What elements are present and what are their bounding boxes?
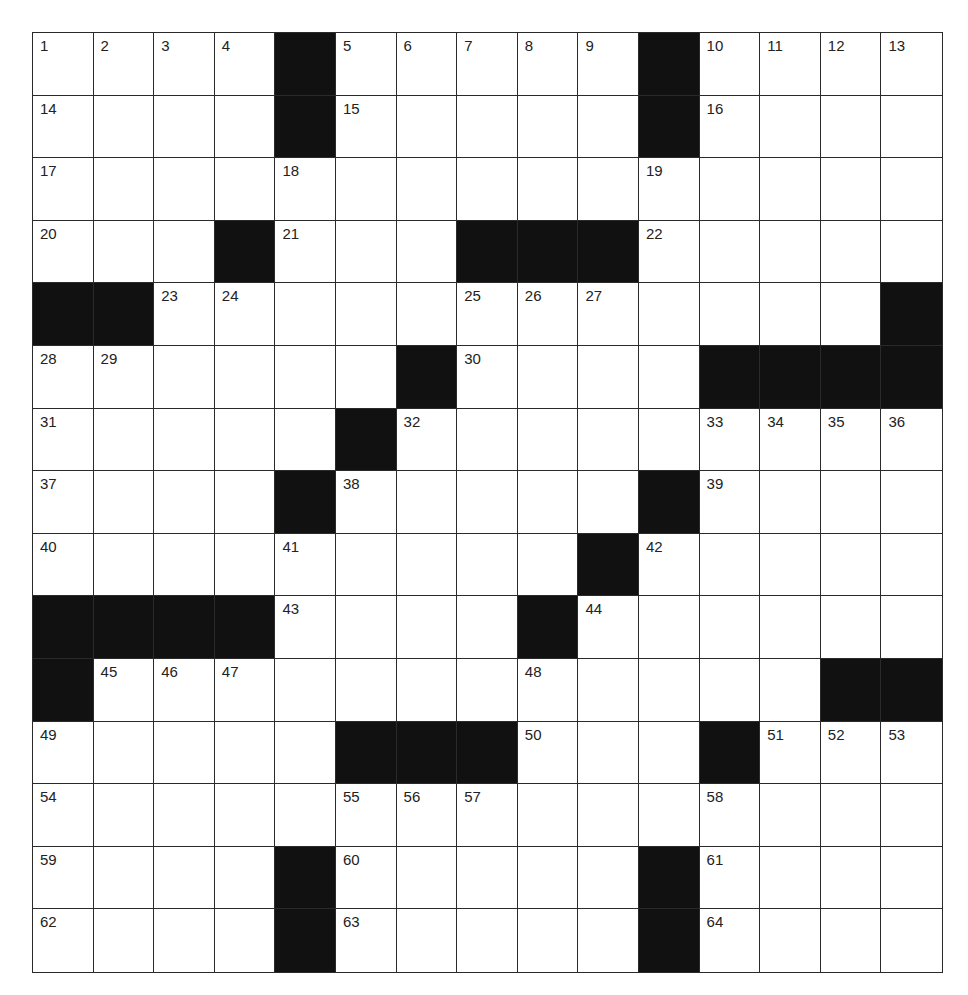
grid-cell[interactable]: 53 xyxy=(881,722,942,785)
grid-cell[interactable] xyxy=(457,534,518,597)
grid-cell[interactable]: 26 xyxy=(518,283,579,346)
grid-cell[interactable] xyxy=(700,283,761,346)
grid-cell[interactable] xyxy=(94,409,155,472)
grid-cell[interactable] xyxy=(821,596,882,659)
grid-cell[interactable] xyxy=(154,221,215,284)
grid-cell[interactable]: 62 xyxy=(33,909,94,972)
grid-cell[interactable] xyxy=(336,346,397,409)
grid-cell[interactable] xyxy=(881,534,942,597)
grid-cell[interactable] xyxy=(821,784,882,847)
grid-cell[interactable] xyxy=(821,847,882,910)
grid-cell[interactable] xyxy=(154,784,215,847)
grid-cell[interactable] xyxy=(154,158,215,221)
grid-cell[interactable] xyxy=(275,784,336,847)
grid-cell[interactable] xyxy=(639,722,700,785)
grid-cell[interactable] xyxy=(94,784,155,847)
grid-cell[interactable]: 4 xyxy=(215,33,276,96)
grid-cell[interactable] xyxy=(397,534,458,597)
grid-cell[interactable]: 27 xyxy=(578,283,639,346)
grid-cell[interactable] xyxy=(397,221,458,284)
grid-cell[interactable]: 29 xyxy=(94,346,155,409)
grid-cell[interactable] xyxy=(336,534,397,597)
grid-cell[interactable] xyxy=(154,346,215,409)
grid-cell[interactable] xyxy=(518,909,579,972)
grid-cell[interactable] xyxy=(215,471,276,534)
grid-cell[interactable] xyxy=(760,96,821,159)
grid-cell[interactable]: 36 xyxy=(881,409,942,472)
grid-cell[interactable] xyxy=(578,158,639,221)
grid-cell[interactable] xyxy=(881,847,942,910)
grid-cell[interactable]: 17 xyxy=(33,158,94,221)
grid-cell[interactable] xyxy=(94,96,155,159)
grid-cell[interactable] xyxy=(336,158,397,221)
grid-cell[interactable] xyxy=(518,784,579,847)
grid-cell[interactable] xyxy=(760,471,821,534)
grid-cell[interactable] xyxy=(457,96,518,159)
grid-cell[interactable] xyxy=(821,534,882,597)
grid-cell[interactable] xyxy=(154,409,215,472)
grid-cell[interactable] xyxy=(275,722,336,785)
grid-cell[interactable] xyxy=(457,409,518,472)
grid-cell[interactable] xyxy=(336,221,397,284)
grid-cell[interactable] xyxy=(578,847,639,910)
grid-cell[interactable] xyxy=(397,847,458,910)
grid-cell[interactable] xyxy=(760,221,821,284)
grid-cell[interactable]: 44 xyxy=(578,596,639,659)
grid-cell[interactable] xyxy=(215,96,276,159)
grid-cell[interactable] xyxy=(760,534,821,597)
grid-cell[interactable] xyxy=(518,471,579,534)
grid-cell[interactable]: 3 xyxy=(154,33,215,96)
grid-cell[interactable] xyxy=(457,596,518,659)
grid-cell[interactable] xyxy=(397,96,458,159)
grid-cell[interactable] xyxy=(154,471,215,534)
grid-cell[interactable]: 46 xyxy=(154,659,215,722)
grid-cell[interactable]: 51 xyxy=(760,722,821,785)
grid-cell[interactable] xyxy=(154,909,215,972)
grid-cell[interactable] xyxy=(821,471,882,534)
grid-cell[interactable]: 7 xyxy=(457,33,518,96)
grid-cell[interactable] xyxy=(215,784,276,847)
grid-cell[interactable] xyxy=(275,409,336,472)
grid-cell[interactable]: 19 xyxy=(639,158,700,221)
grid-cell[interactable] xyxy=(397,596,458,659)
grid-cell[interactable] xyxy=(700,158,761,221)
grid-cell[interactable]: 37 xyxy=(33,471,94,534)
grid-cell[interactable] xyxy=(760,158,821,221)
grid-cell[interactable] xyxy=(821,221,882,284)
grid-cell[interactable]: 24 xyxy=(215,283,276,346)
grid-cell[interactable]: 14 xyxy=(33,96,94,159)
grid-cell[interactable]: 50 xyxy=(518,722,579,785)
grid-cell[interactable]: 45 xyxy=(94,659,155,722)
grid-cell[interactable]: 15 xyxy=(336,96,397,159)
grid-cell[interactable] xyxy=(821,158,882,221)
grid-cell[interactable] xyxy=(760,659,821,722)
grid-cell[interactable] xyxy=(760,784,821,847)
grid-cell[interactable] xyxy=(215,847,276,910)
grid-cell[interactable] xyxy=(578,909,639,972)
grid-cell[interactable] xyxy=(154,96,215,159)
grid-cell[interactable] xyxy=(639,346,700,409)
grid-cell[interactable]: 25 xyxy=(457,283,518,346)
grid-cell[interactable]: 2 xyxy=(94,33,155,96)
grid-cell[interactable]: 58 xyxy=(700,784,761,847)
grid-cell[interactable]: 31 xyxy=(33,409,94,472)
grid-cell[interactable] xyxy=(336,596,397,659)
grid-cell[interactable] xyxy=(397,659,458,722)
grid-cell[interactable] xyxy=(94,221,155,284)
grid-cell[interactable] xyxy=(518,534,579,597)
grid-cell[interactable] xyxy=(518,158,579,221)
grid-cell[interactable] xyxy=(457,158,518,221)
grid-cell[interactable] xyxy=(881,96,942,159)
grid-cell[interactable] xyxy=(881,158,942,221)
grid-cell[interactable]: 6 xyxy=(397,33,458,96)
grid-cell[interactable] xyxy=(457,909,518,972)
grid-cell[interactable]: 55 xyxy=(336,784,397,847)
grid-cell[interactable] xyxy=(215,409,276,472)
grid-cell[interactable] xyxy=(881,596,942,659)
grid-cell[interactable]: 5 xyxy=(336,33,397,96)
grid-cell[interactable] xyxy=(700,659,761,722)
grid-cell[interactable]: 59 xyxy=(33,847,94,910)
grid-cell[interactable]: 47 xyxy=(215,659,276,722)
grid-cell[interactable] xyxy=(760,283,821,346)
grid-cell[interactable] xyxy=(760,909,821,972)
